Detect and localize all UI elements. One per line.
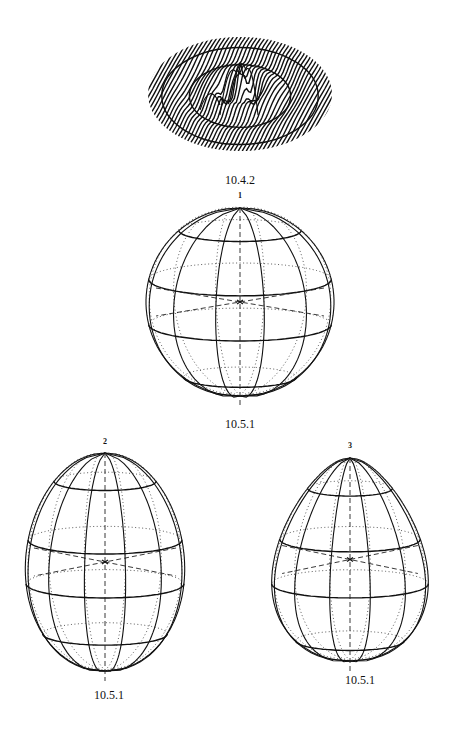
surface-line — [91, 0, 196, 180]
surface-line — [87, 0, 192, 178]
meridian-front — [274, 458, 350, 661]
surface-line — [347, 0, 452, 176]
surface-line — [363, 0, 468, 184]
surface-line — [343, 0, 448, 175]
surface-line — [247, 0, 352, 180]
surface-line — [331, 0, 436, 176]
figure-label-1: 1 — [230, 191, 250, 200]
surface-line — [371, 0, 472, 187]
meridian-front — [105, 453, 126, 671]
surface-line — [335, 0, 440, 175]
meridian-front — [295, 458, 350, 661]
caption-10-5-1-b: 10.5.1 — [69, 688, 149, 703]
surface-line — [387, 0, 472, 180]
meridian-front — [149, 208, 240, 396]
pear-wireframe-3 — [250, 450, 450, 675]
meridian-front — [350, 458, 426, 661]
surface-line — [67, 0, 172, 179]
surface-line — [171, 0, 276, 183]
surface-lines — [0, 0, 472, 192]
egg-wireframe-2 — [15, 445, 195, 685]
meridian-back — [174, 208, 241, 396]
surface-line — [19, 0, 124, 174]
meridian-back — [350, 458, 426, 661]
surface-line — [319, 0, 424, 180]
surface-line — [55, 0, 160, 189]
surface-line — [383, 0, 472, 183]
surface-line — [359, 0, 464, 181]
surface-line — [43, 0, 148, 185]
surface-line — [379, 0, 472, 186]
surface-line — [307, 0, 412, 183]
surface-line — [51, 0, 156, 189]
surface-line — [355, 0, 460, 179]
surface-line — [315, 0, 420, 181]
surface-line — [71, 0, 176, 175]
surface-line — [7, 0, 112, 190]
surface-line — [179, 0, 284, 184]
surface-line — [79, 0, 184, 174]
meridian-front — [240, 208, 307, 396]
meridian-front — [84, 453, 105, 671]
meridian-front — [174, 208, 241, 396]
surface-line — [351, 0, 456, 177]
surface-line — [47, 0, 152, 188]
surface-line — [391, 0, 472, 177]
meridian-back — [49, 453, 105, 671]
surface-line — [95, 0, 200, 182]
surface-line — [283, 0, 388, 183]
surface-line — [27, 0, 132, 175]
surface-line — [83, 0, 188, 176]
surface-line — [35, 0, 140, 180]
surface-line — [3, 0, 108, 192]
surface-line — [131, 0, 236, 177]
caption-10-5-1-a: 10.5.1 — [200, 417, 280, 432]
surface-line — [59, 0, 164, 187]
surface-line — [31, 0, 136, 178]
surface-line — [199, 0, 304, 183]
surface-line — [111, 0, 216, 187]
meridian-back — [105, 453, 161, 671]
figure-label-3: 3 — [340, 441, 360, 450]
surface-line — [15, 0, 120, 180]
caption-10-5-1-c: 10.5.1 — [320, 673, 400, 688]
meridian-back — [240, 208, 307, 396]
surface-line — [39, 0, 144, 183]
surface-line — [0, 0, 99, 188]
meridian-back — [350, 458, 370, 661]
meridian-front — [49, 453, 105, 671]
surface-line — [375, 0, 472, 187]
caption-10-4-2: 10.4.2 — [200, 173, 280, 188]
meridian-front — [105, 453, 161, 671]
meridian-front — [240, 208, 331, 396]
surface-line — [323, 0, 428, 179]
meridian-front — [350, 458, 405, 661]
sphere-wireframe-1 — [140, 200, 340, 410]
surface-line — [339, 0, 444, 175]
meridian-back — [149, 208, 240, 396]
surface-line — [327, 0, 432, 177]
surface-line — [11, 0, 116, 185]
surface-line — [311, 0, 416, 182]
surface-plot-10-4-2 — [140, 0, 340, 170]
surface-line — [0, 0, 95, 185]
surface-line — [367, 0, 472, 186]
surface-line — [23, 0, 128, 173]
meridian-back — [240, 208, 331, 396]
surface-line — [0, 0, 103, 191]
meridian-back — [274, 458, 350, 661]
